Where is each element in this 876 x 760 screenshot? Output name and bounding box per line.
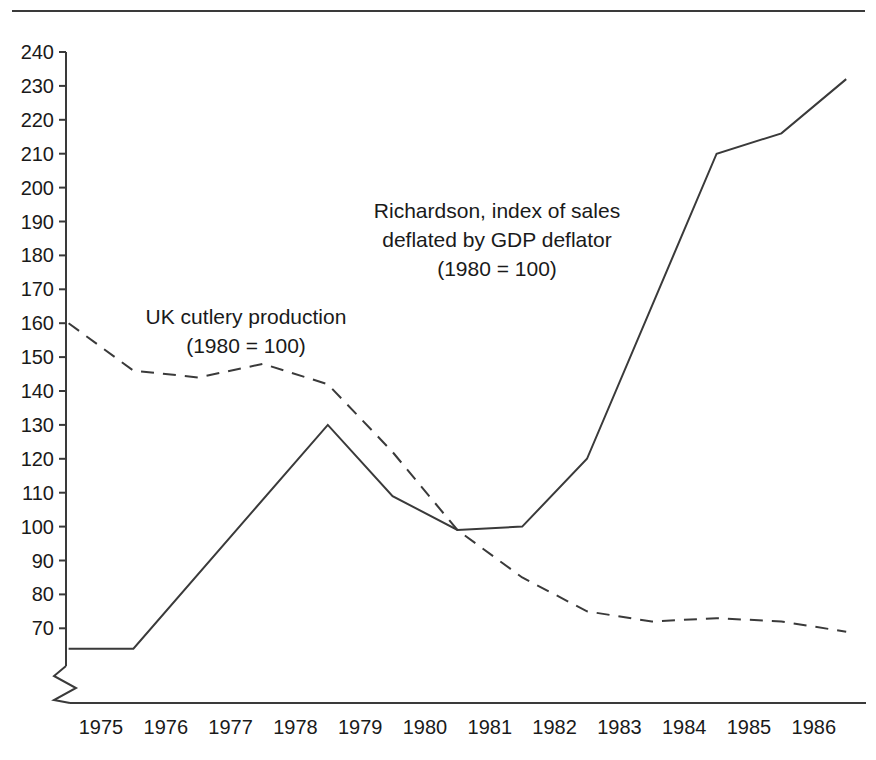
y-axis-tick-label: 90	[0, 551, 54, 571]
y-axis-tick-label: 100	[0, 517, 54, 537]
y-axis-tick-label: 80	[0, 584, 54, 604]
series-line-1	[69, 323, 847, 631]
y-axis-tick-label: 170	[0, 279, 54, 299]
y-axis-tick-label: 120	[0, 449, 54, 469]
richardson-label-line: (1980 = 100)	[297, 254, 697, 283]
y-axis-tick-label: 130	[0, 415, 54, 435]
y-axis-tick-label: 210	[0, 144, 54, 164]
y-axis-tick-label: 190	[0, 212, 54, 232]
x-axis-tick-label: 1986	[774, 717, 854, 737]
series-line-0	[69, 79, 847, 649]
uk-cutlery-label: UK cutlery production(1980 = 100)	[46, 302, 446, 360]
axes-group	[54, 52, 866, 703]
y-axis-tick-label: 240	[0, 42, 54, 62]
y-axis-tick-label: 220	[0, 110, 54, 130]
richardson-label: Richardson, index of salesdeflated by GD…	[297, 196, 697, 283]
uk-cutlery-label-line: UK cutlery production	[46, 302, 446, 331]
line-chart-plot	[0, 0, 876, 760]
y-axis-tick-label: 70	[0, 618, 54, 638]
chart-figure: 7080901001101201301401501601701801902002…	[0, 0, 876, 760]
series-group	[69, 79, 847, 649]
y-axis-tick-label: 110	[0, 483, 54, 503]
y-axis-tick-label: 180	[0, 245, 54, 265]
y-axis-tick-label: 230	[0, 76, 54, 96]
richardson-label-line: deflated by GDP deflator	[297, 225, 697, 254]
y-axis-break-zigzag	[54, 666, 76, 703]
uk-cutlery-label-line: (1980 = 100)	[46, 331, 446, 360]
y-axis-tick-label: 200	[0, 178, 54, 198]
richardson-label-line: Richardson, index of sales	[297, 196, 697, 225]
y-axis-tick-label: 140	[0, 381, 54, 401]
